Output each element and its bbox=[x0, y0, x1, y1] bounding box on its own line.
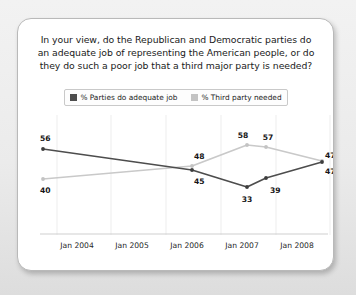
point-label-47-third-party: 47 bbox=[325, 151, 334, 160]
chart-title-line-2: an adequate job of representing the Amer… bbox=[38, 47, 315, 58]
point-label-47-parties-adequate: 47 bbox=[325, 167, 334, 176]
x-tick-jan-2006: Jan 2006 bbox=[170, 241, 203, 250]
chart-title: In your view, do the Republican and Demo… bbox=[28, 33, 324, 73]
point-label-40: 40 bbox=[40, 186, 51, 195]
series-line-parties-adequate bbox=[43, 149, 322, 187]
x-tick-jan-2007: Jan 2007 bbox=[225, 241, 258, 250]
point-label-58: 58 bbox=[238, 131, 249, 140]
legend-label-third-party: % Third party needed bbox=[201, 93, 281, 102]
chart-card: In your view, do the Republican and Demo… bbox=[17, 18, 334, 271]
legend-item-parties-adequate[interactable]: % Parties do adequate job bbox=[70, 93, 177, 102]
x-tick-jan-2004: Jan 2004 bbox=[60, 241, 93, 250]
chart-title-line-1: In your view, do the Republican and Demo… bbox=[41, 34, 312, 45]
legend-swatch-icon-parties-adequate bbox=[70, 94, 77, 101]
x-axis-labels: Jan 2004 Jan 2005 Jan 2006 Jan 2007 Jan … bbox=[18, 241, 334, 255]
point-label-39: 39 bbox=[270, 186, 281, 195]
x-tick-jan-2008: Jan 2008 bbox=[280, 241, 313, 250]
chart-legend: % Parties do adequate job % Third party … bbox=[64, 89, 288, 106]
chart-svg: 56 40 48 45 58 57 33 39 47 47 bbox=[18, 115, 334, 235]
point-label-45: 45 bbox=[194, 177, 205, 186]
chart-title-line-3: they do such a poor job that a third maj… bbox=[40, 60, 312, 71]
point-label-33: 33 bbox=[242, 195, 253, 204]
point-label-56: 56 bbox=[40, 134, 51, 143]
x-tick-jan-2005: Jan 2005 bbox=[115, 241, 148, 250]
point-label-57: 57 bbox=[263, 133, 274, 142]
legend-label-parties-adequate: % Parties do adequate job bbox=[80, 93, 177, 102]
plot-area: 56 40 48 45 58 57 33 39 47 47 bbox=[18, 115, 334, 235]
point-label-48: 48 bbox=[194, 152, 205, 161]
legend-swatch-icon-third-party bbox=[191, 94, 198, 101]
legend-item-third-party[interactable]: % Third party needed bbox=[191, 93, 281, 102]
